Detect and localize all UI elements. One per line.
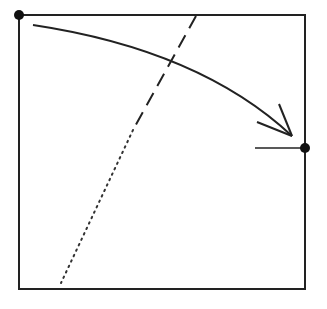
right-edge-dot xyxy=(300,143,310,153)
curved-arrow-shaft xyxy=(33,25,292,136)
diagram-canvas xyxy=(0,0,327,309)
dashed-line xyxy=(133,16,196,130)
dotted-line xyxy=(61,130,133,283)
frame-box xyxy=(19,15,305,289)
top-left-corner-dot xyxy=(14,10,24,20)
